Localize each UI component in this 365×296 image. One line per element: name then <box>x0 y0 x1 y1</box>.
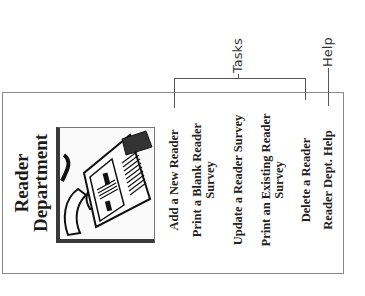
tasks-bracket-bottom-arm <box>305 79 306 100</box>
help-annotation: Help <box>321 37 335 67</box>
menu-item-label: Add a New Reader <box>167 129 181 230</box>
menu-item-label-cont: Survey <box>204 86 217 274</box>
menu-item-label: Delete a Reader <box>299 138 313 223</box>
newspaper-reader-clipart-icon <box>56 127 155 243</box>
tasks-annotation: Tasks <box>231 38 245 73</box>
menu-item-reader-dept-help[interactable]: Reader Dept. Help <box>322 86 335 274</box>
menu-item-delete-reader[interactable]: Delete a Reader <box>300 86 313 274</box>
panel-title: Reader Department <box>12 92 50 274</box>
menu-item-print-existing-survey[interactable]: Print an Existing Reader Survey <box>260 86 286 274</box>
tasks-bracket-stub <box>238 74 239 79</box>
menu-item-print-blank-survey[interactable]: Print a Blank Reader Survey <box>191 86 217 274</box>
menu-item-label: Reader Dept. Help <box>321 130 335 229</box>
menu-item-label-cont: Survey <box>273 86 286 274</box>
menu-item-add-new-reader[interactable]: Add a New Reader <box>168 86 181 274</box>
title-line-2: Department <box>31 92 50 274</box>
menu-item-update-reader-survey[interactable]: Update a Reader Survey <box>232 86 245 274</box>
menu-item-label: Update a Reader Survey <box>231 115 245 246</box>
rotated-figure: Reader Department <box>0 0 365 296</box>
tasks-bracket-top-arm <box>174 79 175 108</box>
help-leader-line <box>328 68 329 106</box>
tasks-bracket-spine <box>174 78 306 79</box>
title-line-1: Reader <box>12 92 31 274</box>
